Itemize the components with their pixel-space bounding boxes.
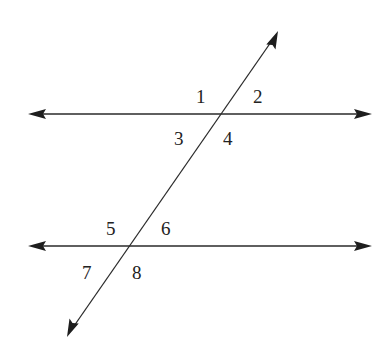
angle-label-5: 5 bbox=[106, 218, 116, 239]
transversal-diagram: 1 2 3 4 5 6 7 8 bbox=[0, 0, 390, 351]
diagram-canvas: 1 2 3 4 5 6 7 8 bbox=[0, 0, 390, 351]
angle-label-3: 3 bbox=[174, 128, 184, 149]
transversal bbox=[67, 31, 278, 337]
angle-label-1: 1 bbox=[196, 86, 206, 107]
angle-label-6: 6 bbox=[161, 218, 171, 239]
lower-parallel-line bbox=[28, 241, 372, 251]
angle-label-7: 7 bbox=[82, 262, 92, 283]
upper-parallel-line bbox=[28, 109, 372, 119]
angle-label-2: 2 bbox=[253, 86, 263, 107]
angle-label-4: 4 bbox=[223, 128, 233, 149]
transversal-segment bbox=[74, 42, 271, 326]
angle-label-8: 8 bbox=[132, 262, 142, 283]
